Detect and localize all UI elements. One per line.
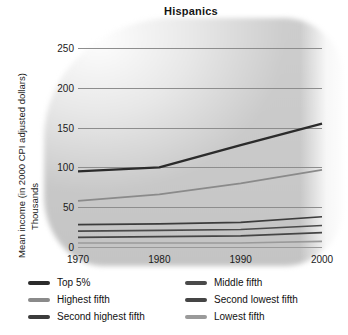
series-line (78, 170, 322, 201)
legend-item[interactable]: Highest fifth (28, 291, 178, 308)
legend-swatch-icon (185, 298, 207, 302)
legend-item-label: Second lowest fifth (214, 294, 298, 305)
series-line (78, 217, 322, 225)
y-tick-label: 200 (0, 82, 74, 93)
legend-swatch-icon (28, 281, 50, 285)
chart-title: Hispanics (60, 5, 322, 17)
y-tick-label: 0 (0, 242, 74, 253)
legend-item[interactable]: Second lowest fifth (185, 291, 335, 308)
plot-area (78, 48, 322, 247)
legend-item[interactable]: Second highest fifth (28, 308, 178, 325)
legend-item[interactable]: Top 5% (28, 274, 178, 291)
legend-item-label: Lowest fifth (214, 311, 265, 322)
y-tick-label: 150 (0, 122, 74, 133)
y-tick-label: 100 (0, 162, 74, 173)
series-line (78, 226, 322, 232)
x-tick-label: 1990 (230, 254, 252, 265)
series-line (78, 233, 322, 238)
legend-item[interactable]: Lowest fifth (185, 308, 335, 325)
x-tick-label: 2000 (311, 254, 333, 265)
x-tick-label: 1970 (67, 254, 89, 265)
legend-swatch-icon (28, 298, 50, 302)
x-axis-line (78, 247, 322, 248)
legend-item-label: Top 5% (57, 277, 90, 288)
legend-item-label: Middle fifth (214, 277, 262, 288)
legend-swatch-icon (185, 315, 207, 319)
legend-item-label: Second highest fifth (57, 311, 145, 322)
chart-figure: Hispanics Mean income (in 2000 CPI adjus… (0, 0, 348, 335)
legend-swatch-icon (28, 315, 50, 319)
legend-column-right: Middle fifthSecond lowest fifthLowest fi… (185, 274, 335, 325)
legend-column-left: Top 5%Highest fifthSecond highest fifth (28, 274, 178, 325)
y-tick-label: 250 (0, 43, 74, 54)
legend-item[interactable]: Middle fifth (185, 274, 335, 291)
series-line (78, 241, 322, 243)
chart-legend: Top 5%Highest fifthSecond highest fifth … (28, 274, 328, 330)
series-lines (78, 48, 322, 247)
series-line (78, 124, 322, 172)
x-tick-label: 1980 (148, 254, 170, 265)
legend-swatch-icon (185, 281, 207, 285)
legend-item-label: Highest fifth (57, 294, 110, 305)
y-tick-label: 50 (0, 202, 74, 213)
